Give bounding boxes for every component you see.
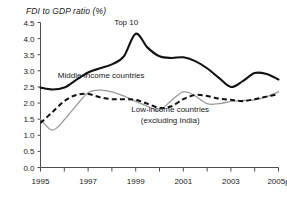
series-label-low-income-sub: (excluding India)	[141, 116, 200, 125]
y-tick-label: 1.0	[23, 131, 35, 140]
y-axis-tick-labels: 0.00.51.01.52.02.53.03.54.04.5	[23, 19, 35, 173]
x-axis-tick-marks	[41, 168, 279, 172]
chart-figure: FDI to GDP ratio (%) 0.00.51.01.52.02.53…	[0, 0, 287, 197]
x-tick-label: 2003	[222, 177, 240, 186]
series-line-top-10	[41, 34, 279, 90]
y-tick-label: 2.0	[23, 99, 35, 108]
series-label-middle-income: Middle-income countries	[58, 71, 145, 80]
series-label-low-income: Low-income countries	[131, 105, 209, 114]
x-tick-label: 2005p	[267, 177, 287, 186]
y-tick-label: 3.5	[23, 51, 35, 60]
x-tick-label: 1997	[79, 177, 97, 186]
y-tick-label: 0.5	[23, 147, 35, 156]
y-tick-label: 2.5	[23, 83, 35, 92]
x-tick-label: 2001	[174, 177, 192, 186]
series-label-top-10: Top 10	[114, 18, 139, 27]
x-tick-label: 1999	[127, 177, 145, 186]
x-tick-label: 1995	[32, 177, 50, 186]
x-axis-tick-labels: 199519971999200120032005p	[32, 177, 287, 186]
y-tick-label: 4.5	[23, 19, 35, 28]
y-tick-label: 3.0	[23, 67, 35, 76]
y-tick-label: 0.0	[23, 164, 35, 173]
y-tick-label: 4.0	[23, 35, 35, 44]
line-chart-plot: 0.00.51.01.52.02.53.03.54.04.5 199519971…	[0, 0, 287, 197]
y-tick-label: 1.5	[23, 115, 35, 124]
